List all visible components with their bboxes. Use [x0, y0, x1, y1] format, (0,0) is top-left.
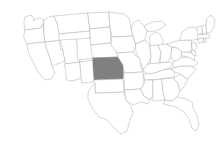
- state-maine[interactable]: [206, 15, 215, 33]
- state-iowa[interactable]: [111, 36, 136, 53]
- state-arkansas[interactable]: [124, 72, 144, 90]
- state-north-dakota[interactable]: [88, 12, 110, 29]
- us-map-svg: [0, 0, 219, 143]
- state-kansas[interactable]: [93, 57, 124, 80]
- us-locator-map: [0, 0, 219, 143]
- state-rhode-island[interactable]: [204, 38, 206, 42]
- state-south-dakota[interactable]: [90, 27, 111, 45]
- state-minnesota[interactable]: [109, 12, 133, 37]
- state-oklahoma[interactable]: [94, 79, 124, 93]
- state-montana[interactable]: [54, 13, 90, 34]
- state-massachusetts[interactable]: [198, 34, 210, 39]
- state-florida[interactable]: [164, 97, 199, 131]
- state-arizona[interactable]: [65, 62, 82, 81]
